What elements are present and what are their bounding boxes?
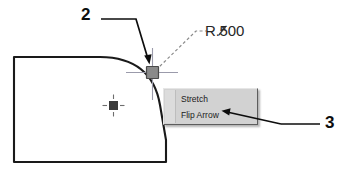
callout-2-leader <box>101 19 152 65</box>
callout-layer <box>0 0 348 171</box>
cad-figure: Stretch Flip Arrow R.500 2 3 <box>0 0 348 171</box>
flip-arrow-pointer <box>222 108 282 124</box>
